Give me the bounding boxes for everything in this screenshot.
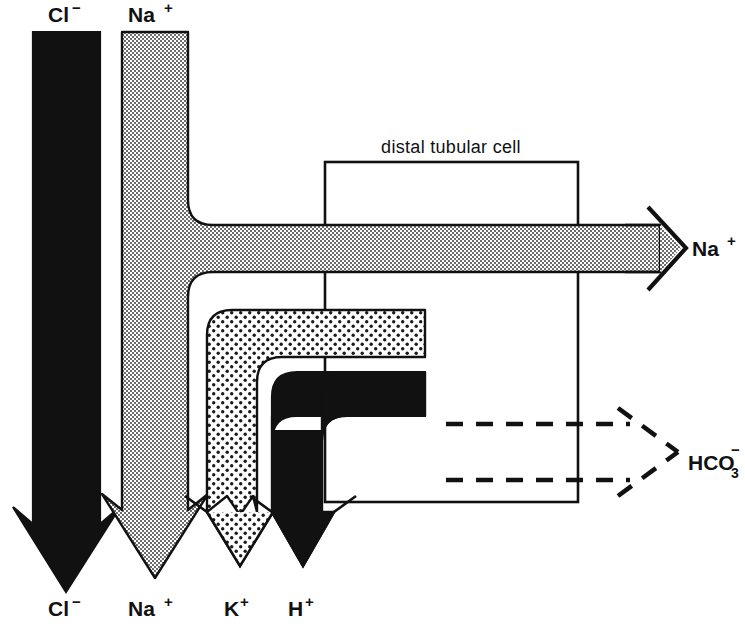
bottom-label-hydrogen-text: H <box>288 597 303 620</box>
bottom-label-sodium-charge: + <box>164 593 173 610</box>
cell-title: distal tubular cell <box>381 137 521 157</box>
diagram-canvas: distal tubular cell Cl − Na + Cl − Na + … <box>0 0 745 634</box>
distal-tubular-cell-diagram: distal tubular cell Cl − Na + Cl − Na + … <box>0 0 745 634</box>
right-label-sodium-charge: + <box>727 232 736 249</box>
top-label-sodium-charge: + <box>164 0 173 16</box>
top-label-chloride-charge: − <box>72 0 81 16</box>
right-label-bicarbonate-text: HCO <box>688 451 735 474</box>
bottom-label-chloride-text: Cl <box>48 597 69 620</box>
top-label-sodium-text: Na <box>128 3 155 26</box>
bottom-label-sodium-text: Na <box>128 597 155 620</box>
bottom-label-hydrogen-charge: + <box>305 593 314 610</box>
top-label-chloride-text: Cl <box>48 3 69 26</box>
right-label-bicarbonate-charge: − <box>731 441 740 458</box>
bottom-label-potassium-text: K <box>224 597 239 620</box>
right-label-sodium-text: Na <box>692 237 719 260</box>
bottom-label-chloride-charge: − <box>72 593 81 610</box>
bottom-label-potassium-charge: + <box>240 593 249 610</box>
right-label-bicarbonate-subscript: 3 <box>731 465 739 481</box>
